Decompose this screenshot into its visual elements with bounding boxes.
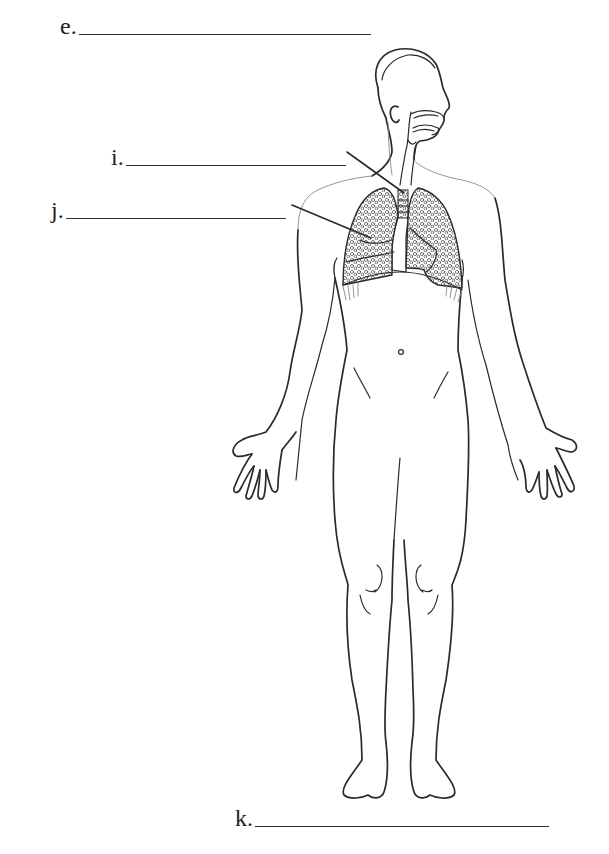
label-i: i. [111, 145, 346, 169]
label-j: j. [51, 198, 286, 222]
answer-blank-i[interactable] [126, 165, 346, 166]
answer-blank-k[interactable] [255, 826, 549, 827]
legs [335, 520, 466, 798]
label-i-letter: i. [111, 145, 124, 169]
human-body-diagram [0, 0, 609, 854]
label-e: e. [60, 14, 371, 38]
answer-blank-e[interactable] [79, 34, 371, 35]
answer-blank-j[interactable] [66, 218, 286, 219]
label-k: k. [235, 806, 549, 830]
label-k-letter: k. [235, 806, 253, 830]
label-j-letter: j. [51, 198, 64, 222]
head [372, 49, 449, 185]
pointer-i [347, 152, 404, 193]
lungs [334, 188, 464, 302]
trachea [398, 190, 408, 218]
label-e-letter: e. [60, 14, 77, 38]
